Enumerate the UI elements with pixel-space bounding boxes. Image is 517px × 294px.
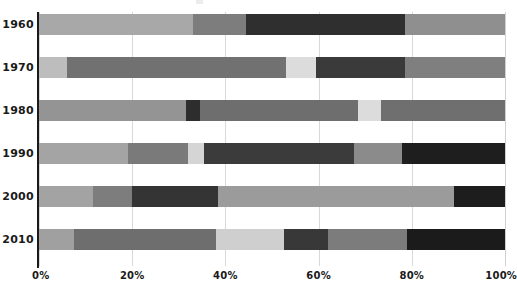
bar-row-1980[interactable] — [39, 100, 505, 121]
bar-row-1970[interactable] — [39, 57, 505, 78]
bar-segment-2010-4[interactable] — [284, 229, 328, 250]
gridline-80 — [412, 12, 413, 266]
y-tick-label-2000: 2000 — [0, 186, 34, 207]
bar-segment-2000-4[interactable] — [218, 186, 383, 207]
bar-segment-1960-1[interactable] — [39, 14, 193, 35]
bar-segment-2000-6[interactable] — [454, 186, 505, 207]
bar-row-2000[interactable] — [39, 186, 505, 207]
bar-row-1960[interactable] — [39, 14, 505, 35]
x-tick-label-0: 0% — [32, 270, 49, 281]
bar-row-1990[interactable] — [39, 143, 505, 164]
bar-segment-1970-2[interactable] — [67, 57, 286, 78]
bar-segment-1980-1[interactable] — [39, 100, 186, 121]
x-tick-label-80: 80% — [400, 270, 425, 281]
bar-segment-1990-5[interactable] — [354, 143, 403, 164]
bar-segment-2000-2[interactable] — [93, 186, 133, 207]
gridline-40 — [225, 12, 226, 266]
bar-segment-2000-5[interactable] — [384, 186, 454, 207]
bar-segment-2010-5[interactable] — [328, 229, 407, 250]
gridline-0 — [39, 12, 40, 266]
bar-segment-2000-1[interactable] — [39, 186, 93, 207]
x-tick-label-60: 60% — [306, 270, 331, 281]
gridline-20 — [132, 12, 133, 266]
y-tick-label-2010: 2010 — [0, 229, 34, 250]
bar-segment-1970-3[interactable] — [286, 57, 316, 78]
bar-segment-2010-3[interactable] — [216, 229, 284, 250]
gridline-100 — [505, 12, 506, 266]
bar-segment-2010-6[interactable] — [407, 229, 505, 250]
x-axis-tick-labels: 0%20%40%60%80%100% — [0, 270, 514, 286]
bar-segment-2010-1[interactable] — [39, 229, 74, 250]
bar-segment-1980-5[interactable] — [381, 100, 504, 121]
bar-row-2010[interactable] — [39, 229, 505, 250]
y-axis-tick-labels: 196019701980199020002010 — [0, 12, 34, 266]
y-tick-label-1970: 1970 — [0, 57, 34, 78]
bar-segment-1960-4[interactable] — [405, 14, 505, 35]
bar-segment-2010-2[interactable] — [74, 229, 216, 250]
bar-segment-1970-4[interactable] — [316, 57, 405, 78]
gridline-60 — [319, 12, 320, 266]
clipped-title-artifact — [196, 0, 203, 4]
y-tick-label-1960: 1960 — [0, 14, 34, 35]
bar-segment-1990-6[interactable] — [402, 143, 505, 164]
bar-segment-1970-5[interactable] — [405, 57, 505, 78]
bar-segment-1980-4[interactable] — [358, 100, 381, 121]
bar-segment-2000-3[interactable] — [132, 186, 218, 207]
bar-segment-1960-2[interactable] — [193, 14, 247, 35]
y-tick-label-1990: 1990 — [0, 143, 34, 164]
bar-segment-1990-4[interactable] — [204, 143, 353, 164]
bar-segment-1990-1[interactable] — [39, 143, 128, 164]
bar-segment-1990-3[interactable] — [188, 143, 204, 164]
x-tick-label-20: 20% — [120, 270, 145, 281]
bar-segment-1970-1[interactable] — [39, 57, 67, 78]
bar-segment-1980-2[interactable] — [186, 100, 200, 121]
bar-segment-1980-3[interactable] — [200, 100, 358, 121]
x-tick-label-40: 40% — [213, 270, 238, 281]
x-tick-label-100: 100% — [485, 270, 517, 281]
bar-segment-1990-2[interactable] — [128, 143, 189, 164]
bar-segment-1960-3[interactable] — [246, 14, 404, 35]
plot-area — [39, 12, 505, 266]
y-tick-label-1980: 1980 — [0, 100, 34, 121]
